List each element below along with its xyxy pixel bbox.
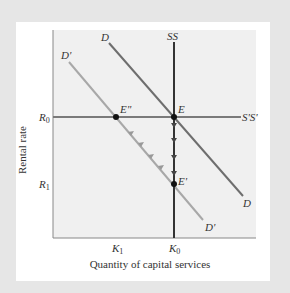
label-d-end: D — [242, 197, 251, 209]
x-tick-k1: K1 — [111, 242, 123, 256]
label-d-prime-end: D' — [204, 221, 216, 233]
plot-area — [53, 30, 256, 238]
x-tick-k0: K0 — [168, 242, 180, 256]
y-tick-r1: R1 — [38, 178, 50, 192]
label-e: E — [177, 103, 185, 115]
y-tick-r0: R0 — [38, 111, 50, 125]
y-axis-title: Rental rate — [16, 126, 28, 174]
label-e-double-prime: E" — [119, 103, 132, 115]
point-e — [171, 114, 177, 120]
label-d-prime-start: D' — [60, 49, 72, 61]
point-e-prime — [171, 181, 177, 187]
point-e-double-prime — [113, 114, 119, 120]
x-axis-title: Quantity of capital services — [90, 258, 211, 270]
label-s-prime-s-prime: S'S' — [242, 111, 258, 123]
label-d-start: D — [100, 31, 109, 43]
capital-market-diagram: E E" E' D D D' D' SS S'S' R0 R1 K1 K0 Qu… — [0, 0, 290, 293]
label-ss: SS — [167, 30, 179, 42]
label-e-prime: E' — [177, 175, 188, 187]
